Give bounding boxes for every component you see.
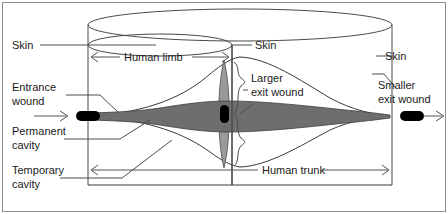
bullet-internal xyxy=(220,105,229,123)
label-larger-exit-wound-line2: exit wound xyxy=(251,86,304,98)
exit-bullet xyxy=(400,111,424,121)
entrance-bullet xyxy=(76,111,100,121)
label-entrance-wound-line1: Entrance xyxy=(12,81,56,93)
label-smaller-exit-wound-line1: Smaller xyxy=(378,79,416,91)
label-permanent-cavity-line2: cavity xyxy=(12,139,41,151)
diagram-canvas: Skin Skin Skin Entrance wound Permanent … xyxy=(0,0,448,214)
trunk-top-ellipse xyxy=(88,9,392,41)
exit-wound-group xyxy=(400,111,444,121)
label-temporary-cavity-line1: Temporary xyxy=(12,164,64,176)
entrance-wound-group xyxy=(34,111,100,121)
label-smaller-exit-wound-line2: exit wound xyxy=(378,93,431,105)
label-skin-center: Skin xyxy=(255,39,276,51)
label-human-limb: Human limb xyxy=(124,51,183,63)
label-skin-right: Skin xyxy=(385,50,406,62)
entrance-wound-leader xyxy=(66,95,118,112)
label-temporary-cavity-line2: cavity xyxy=(12,178,41,190)
label-human-trunk: Human trunk xyxy=(262,164,325,176)
label-entrance-wound-line2: wound xyxy=(11,95,44,107)
label-larger-exit-wound-line1: Larger xyxy=(251,72,283,84)
bullet-internal-shape xyxy=(220,105,229,123)
label-skin-left: Skin xyxy=(12,39,33,51)
human-trunk-cylinder xyxy=(88,9,392,185)
label-permanent-cavity-line1: Permanent xyxy=(12,125,66,137)
temporary-cavity-leader xyxy=(60,140,172,178)
wound-profile-diagram: Skin Skin Skin Entrance wound Permanent … xyxy=(0,0,448,214)
